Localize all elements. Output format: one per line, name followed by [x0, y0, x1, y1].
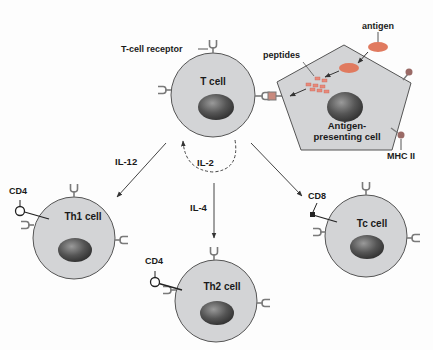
cd8-label: CD8: [308, 191, 326, 201]
cd4-icon: [16, 207, 25, 216]
tc-cell: [310, 182, 420, 277]
receptor-icon: [407, 235, 420, 242]
il12-label: IL-12: [115, 156, 137, 167]
t-cell-label: T cell: [200, 76, 226, 87]
t-cell-receptor-label: T-cell receptor: [121, 44, 183, 54]
tcr-icon: [210, 40, 217, 53]
receptor-icon: [71, 184, 78, 197]
tc-arrow: [251, 143, 302, 196]
receptor-icon: [211, 247, 218, 260]
receptor-icon: [115, 237, 128, 244]
th1-cell: [16, 184, 129, 279]
t-cell-differentiation-diagram: T cell T-cell receptor antigen pepti: [0, 0, 433, 350]
th1-cell-label: Th1 cell: [64, 211, 101, 222]
apc-label-line1: Antigen-: [328, 120, 367, 131]
cd4-icon: [151, 278, 160, 287]
th2-cell-label: Th2 cell: [203, 281, 240, 292]
antigen-internal-icon: [339, 63, 359, 73]
mhc-ii-icon: [398, 132, 405, 139]
mhc-ii-label: MHC II: [387, 151, 415, 161]
cd4-label-th2: CD4: [145, 256, 163, 266]
cd8-icon: [310, 212, 315, 217]
peptides-label: peptides: [263, 50, 300, 60]
il2-label: IL-2: [197, 157, 214, 168]
mhc-ii-icon: [406, 69, 413, 76]
apc-label-line2: presenting cell: [313, 131, 380, 142]
il12-arrow: [117, 143, 166, 197]
il4-label: IL-4: [190, 202, 208, 213]
antigen-icon: [368, 42, 388, 52]
tc-cell-label: Tc cell: [357, 218, 388, 229]
th2-cell: [151, 247, 271, 342]
receptor-icon: [363, 182, 370, 195]
receptor-icon: [257, 300, 270, 307]
antigen-label: antigen: [362, 21, 394, 31]
cd4-label-th1: CD4: [9, 186, 27, 196]
receptor-icon: [21, 222, 34, 229]
receptor-icon: [313, 229, 326, 236]
receptor-icon: [158, 87, 171, 94]
